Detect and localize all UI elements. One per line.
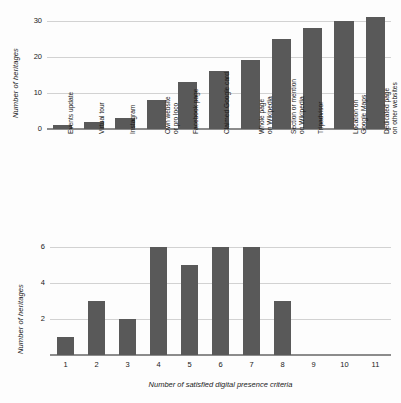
bar: [272, 39, 291, 129]
x-tick-label: 11: [361, 361, 391, 369]
bottom-bar-chart: Number of heritages 246 1234567891011 Nu…: [0, 232, 401, 403]
x-tick-label-line: Instagram: [129, 105, 137, 134]
x-tick-label-line: Section or mention: [290, 79, 298, 134]
bar: [119, 319, 137, 355]
y-tick-label: 20: [23, 53, 42, 61]
x-tick-label: Own websiteor pro loco: [164, 96, 180, 134]
bar: [212, 247, 230, 355]
x-tick-label: Events update: [67, 92, 75, 134]
y-tick-label: 30: [23, 17, 42, 25]
x-tick-label-line: or pro loco: [172, 96, 180, 134]
x-tick-label: Section or mentionon Wikipedia: [290, 79, 306, 134]
y-tick-label: 10: [23, 89, 42, 97]
x-tick-label: 2: [82, 361, 112, 369]
x-tick-label: 3: [113, 361, 143, 369]
x-tick-label: Dedicated pageon other websites: [383, 82, 399, 134]
y-tick-label: 0: [23, 125, 42, 133]
figure-root: Number of heritages 0102030 Events updat…: [0, 0, 401, 403]
x-tick-label: Whole pageon Wikipedia: [258, 96, 274, 134]
y-tick-label: 2: [26, 315, 45, 323]
bar: [181, 265, 199, 355]
x-tick-label-line: Virtual tour: [98, 102, 106, 134]
x-tick-label-line: on other websites: [391, 82, 399, 134]
bar: [334, 21, 353, 129]
x-tick-label: 9: [299, 361, 329, 369]
bar: [57, 337, 75, 355]
x-tick-label: Facebook page: [192, 89, 200, 134]
bar: [274, 301, 292, 355]
bottom-chart-x-axis-title: Number of satisfied digital presence cri…: [50, 380, 391, 389]
x-tick-label: 1: [51, 361, 81, 369]
x-tick-label-line: on Wikipedia: [298, 79, 306, 134]
x-tick-label: 7: [237, 361, 267, 369]
x-tick-label-line: Claimed Google card: [223, 72, 231, 134]
bar: [88, 301, 106, 355]
x-tick-label-line: Google Maps: [360, 95, 368, 134]
x-tick-label: Tripadvisor: [317, 102, 325, 134]
y-tick-label: 6: [26, 243, 45, 251]
x-tick-label: 4: [144, 361, 174, 369]
x-tick-label-line: Location on: [352, 95, 360, 134]
x-tick-label: Virtual tour: [98, 102, 106, 134]
bar: [243, 247, 261, 355]
bottom-chart-plot-area: [50, 242, 391, 355]
y-tick-label: 4: [26, 279, 45, 287]
bottom-chart-y-axis-title: Number of heritages: [16, 284, 25, 354]
x-tick-label: 5: [175, 361, 205, 369]
top-bar-chart: Number of heritages 0102030 Events updat…: [0, 0, 401, 215]
x-tick-label: 10: [330, 361, 360, 369]
bar: [150, 247, 168, 355]
x-tick-label-line: Tripadvisor: [317, 102, 325, 134]
x-tick-label-line: Events update: [67, 92, 75, 134]
x-tick-label: Location onGoogle Maps: [352, 95, 368, 134]
top-chart-y-axis-title: Number of heritages: [11, 48, 20, 118]
x-tick-label-line: on Wikipedia: [266, 96, 274, 134]
x-tick-label: Instagram: [129, 105, 137, 134]
x-tick-label-line: Facebook page: [192, 89, 200, 134]
x-tick-label: 8: [268, 361, 298, 369]
x-tick-label: 6: [206, 361, 236, 369]
x-tick-label: Claimed Google card: [223, 72, 231, 134]
